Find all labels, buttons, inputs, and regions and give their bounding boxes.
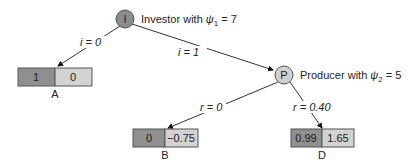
svg-text:0: 0 (146, 132, 152, 144)
outcome-d: 0.99 1.65 D (291, 129, 354, 161)
svg-text:0: 0 (70, 71, 76, 83)
svg-text:B: B (161, 149, 168, 161)
svg-text:1.65: 1.65 (327, 132, 348, 144)
svg-text:0.99: 0.99 (295, 132, 316, 144)
edge-label-r40: r = 0.40 (293, 101, 331, 113)
game-tree-diagram: i = 0 i = 1 r = 0 r = 0.40 I Investor wi… (0, 0, 408, 166)
outcome-a: 1 0 A (18, 68, 92, 100)
investor-label: Investor with ψ1 = 7 (141, 13, 237, 28)
svg-text:D: D (318, 149, 326, 161)
producer-label: Producer with ψ2 = 5 (300, 69, 401, 84)
svg-text:−0.75: −0.75 (167, 132, 195, 144)
edge-label-i1: i = 1 (178, 46, 199, 58)
outcome-b: 0 −0.75 B (133, 129, 198, 161)
edge-label-i0: i = 0 (80, 36, 102, 48)
edge-label-r0: r = 0 (200, 101, 223, 113)
investor-node-symbol: I (123, 13, 126, 25)
producer-node-symbol: P (280, 69, 287, 81)
svg-text:1: 1 (33, 71, 39, 83)
svg-text:A: A (51, 88, 59, 100)
